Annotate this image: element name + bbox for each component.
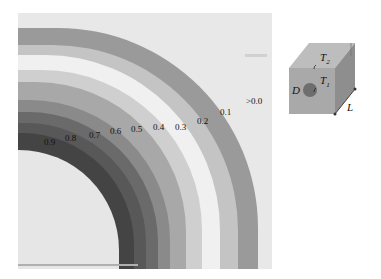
contour-label-0.9: 0.9 xyxy=(44,138,55,147)
contour-label-0.3: 0.3 xyxy=(175,123,186,132)
contour-label-0.5: 0.5 xyxy=(131,125,142,134)
bottom-edge-line xyxy=(18,264,138,266)
contour-label-0.0: >0.0 xyxy=(246,97,262,106)
contour-label-0.6: 0.6 xyxy=(110,127,121,136)
contour-label-0.4: 0.4 xyxy=(153,123,164,132)
contour-label-0.1: 0.1 xyxy=(220,108,231,117)
label-t1: T1 xyxy=(320,75,330,89)
contour-label-0.8: 0.8 xyxy=(65,134,76,143)
contour-plot xyxy=(18,13,272,269)
block-diagram-inset: T2 T1 D L xyxy=(285,38,357,116)
label-t2: T2 xyxy=(320,52,330,66)
contour-label-0.7: 0.7 xyxy=(89,131,100,140)
label-d: D xyxy=(292,85,300,96)
hole-icon xyxy=(303,83,317,97)
contour-label-0.2: 0.2 xyxy=(197,117,208,126)
watermark xyxy=(245,54,267,57)
label-l: L xyxy=(347,102,353,113)
